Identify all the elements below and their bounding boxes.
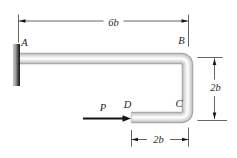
- bent-bar-figure-svg: 6b 2b: [0, 0, 237, 158]
- point-label-b: B: [178, 35, 185, 46]
- point-label-c: C: [175, 98, 183, 109]
- dim-arrow-left-icon: [19, 19, 26, 23]
- force-arrow: [83, 115, 131, 122]
- force-label-p: P: [99, 102, 107, 113]
- dim-label-bottom: 2b: [153, 134, 164, 145]
- dimension-top-6b: 6b: [19, 15, 189, 47]
- dim-arrow-down-icon: [213, 113, 217, 120]
- dim-arrow-left-icon: [132, 138, 139, 142]
- point-label-d: D: [123, 99, 132, 110]
- dimension-right-2b: 2b: [198, 58, 228, 121]
- dim-arrow-right-icon: [182, 138, 189, 142]
- dim-arrow-up-icon: [213, 59, 217, 66]
- dim-label-right: 2b: [210, 82, 221, 93]
- dimension-bottom-2b: 2b: [132, 128, 189, 147]
- mechanics-diagram: 6b 2b: [0, 0, 237, 158]
- dim-arrow-right-icon: [182, 19, 189, 23]
- bent-bar: [20, 59, 188, 123]
- point-label-a: A: [20, 37, 28, 48]
- fixed-support-wall: [13, 44, 20, 86]
- force-arrowhead-icon: [123, 115, 132, 122]
- dim-label-top: 6b: [108, 17, 119, 28]
